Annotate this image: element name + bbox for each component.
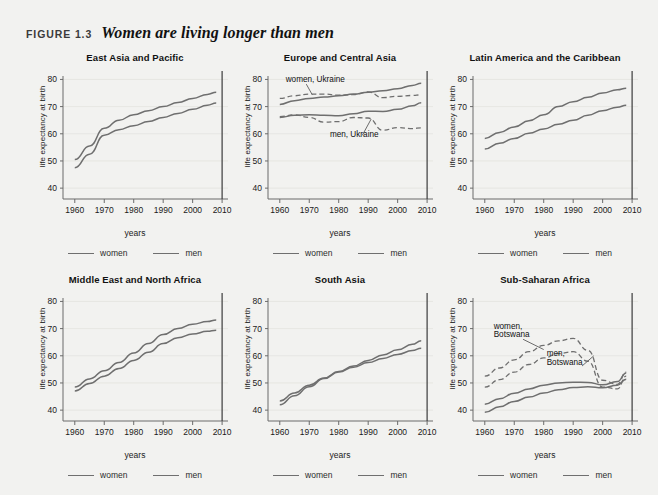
svg-text:1970: 1970 xyxy=(505,427,524,437)
chart-panel: East Asia and Pacific4050607080196019701… xyxy=(30,52,240,270)
x-axis-label: years xyxy=(235,228,445,238)
svg-text:80: 80 xyxy=(48,74,58,84)
series-line xyxy=(75,103,216,168)
legend-label: men xyxy=(595,470,612,480)
legend-line-icon xyxy=(273,253,299,254)
panel-grid: East Asia and Pacific4050607080196019701… xyxy=(0,52,658,492)
x-axis-label: years xyxy=(235,450,445,460)
legend-item-women: women xyxy=(478,470,537,480)
svg-text:50: 50 xyxy=(253,378,263,388)
legend-item-men: men xyxy=(563,248,612,258)
svg-text:80: 80 xyxy=(458,74,468,84)
svg-text:1980: 1980 xyxy=(329,205,348,215)
panel-title: Latin America and the Caribbean xyxy=(440,52,650,63)
svg-text:2010: 2010 xyxy=(213,205,232,215)
svg-text:1960: 1960 xyxy=(270,205,289,215)
x-axis-label: years xyxy=(440,228,650,238)
legend-label: men xyxy=(595,248,612,258)
figure-number-label: FIGURE 1.3 xyxy=(26,28,92,40)
svg-text:50: 50 xyxy=(458,156,468,166)
chart-panel: Latin America and the Caribbean405060708… xyxy=(440,52,650,270)
legend-item-women: women xyxy=(68,248,127,258)
svg-text:1960: 1960 xyxy=(65,205,84,215)
svg-text:40: 40 xyxy=(48,405,58,415)
series-line xyxy=(280,103,421,118)
svg-text:80: 80 xyxy=(253,74,263,84)
svg-text:1990: 1990 xyxy=(154,205,173,215)
svg-text:1960: 1960 xyxy=(270,427,289,437)
svg-text:70: 70 xyxy=(253,324,263,334)
legend-label: men xyxy=(185,470,202,480)
svg-text:60: 60 xyxy=(48,351,58,361)
legend-item-women: women xyxy=(478,248,537,258)
chart-panel: South Asia405060708019601970198019902000… xyxy=(235,274,445,492)
series-line xyxy=(280,348,421,405)
legend-item-women: women xyxy=(273,470,332,480)
legend-item-women: women xyxy=(68,470,127,480)
legend-item-men: men xyxy=(563,470,612,480)
svg-text:50: 50 xyxy=(48,156,58,166)
legend-line-icon xyxy=(358,475,384,476)
svg-text:1980: 1980 xyxy=(534,205,553,215)
x-axis-label: years xyxy=(30,228,240,238)
series-line xyxy=(280,115,421,130)
svg-text:80: 80 xyxy=(458,296,468,306)
y-axis-label: life expectancy at birth xyxy=(448,79,457,175)
plot-area: 4050607080196019701980199020002010life e… xyxy=(440,66,650,226)
legend-item-men: men xyxy=(153,248,202,258)
svg-text:2010: 2010 xyxy=(213,427,232,437)
series-annotation: women, xyxy=(493,322,523,331)
svg-text:1990: 1990 xyxy=(359,205,378,215)
svg-text:1980: 1980 xyxy=(124,205,143,215)
svg-text:1960: 1960 xyxy=(475,427,494,437)
legend-line-icon xyxy=(273,475,299,476)
svg-text:1970: 1970 xyxy=(95,205,114,215)
legend-item-men: men xyxy=(153,470,202,480)
legend-item-men: men xyxy=(358,470,407,480)
svg-text:70: 70 xyxy=(48,324,58,334)
legend-label: women xyxy=(305,470,332,480)
panel-title: Europe and Central Asia xyxy=(235,52,445,63)
panel-legend: womenmen xyxy=(235,470,445,480)
svg-text:1960: 1960 xyxy=(475,205,494,215)
legend-line-icon xyxy=(478,475,504,476)
figure-header: FIGURE 1.3 Women are living longer than … xyxy=(26,24,334,42)
svg-text:60: 60 xyxy=(48,129,58,139)
svg-text:60: 60 xyxy=(458,129,468,139)
series-annotation: Botswana xyxy=(494,330,530,339)
legend-line-icon xyxy=(153,475,179,476)
series-line xyxy=(485,373,626,404)
svg-text:50: 50 xyxy=(458,378,468,388)
legend-label: women xyxy=(100,248,127,258)
legend-label: men xyxy=(390,248,407,258)
series-annotation: men, Ukraine xyxy=(330,130,379,139)
svg-text:50: 50 xyxy=(253,156,263,166)
plot-area: 4050607080196019701980199020002010life e… xyxy=(30,288,240,448)
svg-text:40: 40 xyxy=(253,405,263,415)
chart-panel: Sub-Saharan Africa4050607080196019701980… xyxy=(440,274,650,492)
svg-text:2010: 2010 xyxy=(623,427,642,437)
panel-legend: womenmen xyxy=(30,248,240,258)
panel-title: Sub-Saharan Africa xyxy=(440,274,650,285)
svg-text:80: 80 xyxy=(253,296,263,306)
svg-text:1970: 1970 xyxy=(505,205,524,215)
svg-text:2000: 2000 xyxy=(593,427,612,437)
chart-panel: Europe and Central Asia40506070801960197… xyxy=(235,52,445,270)
svg-text:2000: 2000 xyxy=(183,427,202,437)
y-axis-label: life expectancy at birth xyxy=(243,79,252,175)
panel-legend: womenmen xyxy=(30,470,240,480)
svg-text:70: 70 xyxy=(458,324,468,334)
legend-label: men xyxy=(185,248,202,258)
svg-text:70: 70 xyxy=(458,102,468,112)
svg-text:2000: 2000 xyxy=(593,205,612,215)
svg-text:1980: 1980 xyxy=(124,427,143,437)
svg-text:1970: 1970 xyxy=(300,427,319,437)
svg-text:60: 60 xyxy=(458,351,468,361)
legend-label: women xyxy=(510,470,537,480)
y-axis-label: life expectancy at birth xyxy=(243,301,252,397)
series-annotation: men, xyxy=(547,349,565,358)
svg-text:2010: 2010 xyxy=(418,427,437,437)
legend-label: women xyxy=(100,470,127,480)
legend-line-icon xyxy=(563,475,589,476)
svg-text:60: 60 xyxy=(253,129,263,139)
